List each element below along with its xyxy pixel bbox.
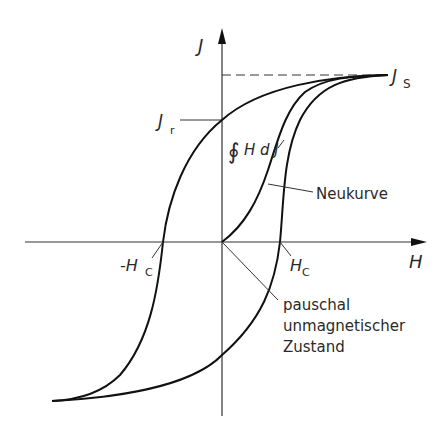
saturation-label: J (389, 66, 397, 86)
axes (25, 40, 415, 416)
neukurve-leader (268, 184, 313, 192)
neg-coercive-label: -H (120, 256, 138, 275)
saturation-subscript: S (403, 77, 411, 91)
pos-coercive-subscript: C (302, 266, 310, 279)
demag-label-line1: pauschal (283, 296, 350, 314)
demag-label-line2: unmagnetischer (283, 317, 406, 335)
j-axis-label: J (195, 35, 203, 56)
remanence-subscript: r (170, 124, 175, 137)
demag-label-line3: Zustand (283, 338, 345, 356)
integral-leader (278, 140, 284, 148)
diagram-svg: J H J S J r ∮ H d J Neukurve -H C H C pa… (0, 0, 447, 437)
integral-label: H d J (244, 141, 279, 159)
remanence-label: J (155, 111, 163, 131)
j-axis-arrow-icon (218, 28, 226, 44)
hysteresis-diagram: J H J S J r ∮ H d J Neukurve -H C H C pa… (0, 0, 447, 437)
h-axis-arrow-icon (411, 238, 427, 246)
neukurve-label: Neukurve (316, 185, 388, 203)
contour-integral-icon: ∮ (228, 139, 239, 164)
demag-leader (222, 242, 278, 300)
pos-coercive-label: H (290, 256, 302, 275)
h-axis-label: H (409, 251, 423, 272)
pos-hc-leader (280, 242, 291, 256)
neg-coercive-subscript: C (145, 266, 153, 279)
